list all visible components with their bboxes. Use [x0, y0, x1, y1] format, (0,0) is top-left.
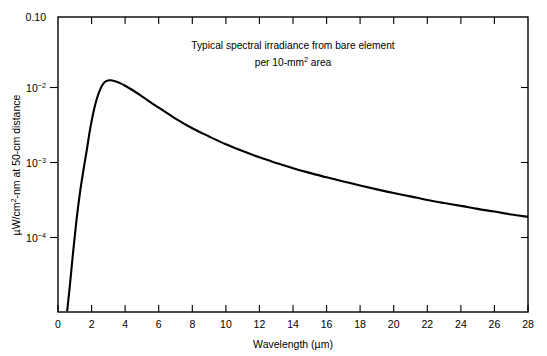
x-tick-label-10: 20: [388, 318, 400, 330]
x-tick-label-11: 22: [421, 318, 433, 330]
y-tick-labels: 0.10 10−2 10−3 10−4: [26, 11, 47, 244]
x-tick-label-4: 8: [189, 318, 195, 330]
y-tick-label-0: 0.10: [26, 11, 47, 23]
x-tick-label-14: 28: [522, 318, 534, 330]
y-tick-label-3-exponent: −4: [38, 231, 46, 240]
x-tick-label-12: 24: [455, 318, 467, 330]
y-axis-ticks: [50, 88, 58, 238]
chart-svg: 0.10 10−2 10−3 10−4 0 2 4 6 8 10 12 14 1…: [0, 0, 547, 356]
y-tick-label-1: 10−2: [26, 81, 46, 94]
figure-spectral-irradiance: 0.10 10−2 10−3 10−4 0 2 4 6 8 10 12 14 1…: [0, 0, 547, 356]
x-axis-ticks: [58, 305, 528, 312]
x-tick-label-8: 16: [321, 318, 333, 330]
x-tick-label-3: 6: [156, 318, 162, 330]
x-axis-top-ticks: [92, 17, 495, 24]
y-tick-label-2-exponent: −3: [38, 156, 46, 165]
y-tick-label-1-mantissa: 10: [26, 82, 38, 94]
chart-title-line2-suffix: area: [308, 57, 332, 68]
y-axis-title: µW/cm2-nm at 50-cm distance: [9, 94, 22, 235]
y-tick-label-3-mantissa: 10: [26, 232, 38, 244]
x-tick-label-13: 26: [489, 318, 501, 330]
x-tick-labels: 0 2 4 6 8 10 12 14 16 18 20 22 24 26 28: [55, 318, 534, 330]
chart-title-line1: Typical spectral irradiance from bare el…: [191, 40, 394, 51]
x-axis-title: Wavelength (µm): [253, 338, 333, 350]
y-axis-title-prefix: µW/cm: [10, 202, 22, 235]
y-tick-label-2-mantissa: 10: [26, 157, 38, 169]
x-tick-label-1: 2: [89, 318, 95, 330]
x-tick-label-5: 10: [220, 318, 232, 330]
chart-title: Typical spectral irradiance from bare el…: [191, 40, 394, 68]
y-tick-label-2: 10−3: [26, 156, 46, 169]
x-tick-label-9: 18: [354, 318, 366, 330]
chart-title-line2: per 10-mm2 area: [255, 55, 332, 68]
y-tick-label-1-exponent: −2: [38, 81, 46, 90]
x-tick-label-2: 4: [122, 318, 128, 330]
x-tick-label-7: 14: [287, 318, 299, 330]
x-tick-label-0: 0: [55, 318, 61, 330]
x-tick-label-6: 12: [254, 318, 266, 330]
y-axis-title-suffix: -nm at 50-cm distance: [10, 94, 22, 198]
data-curve-spectral-irradiance: [67, 80, 528, 310]
chart-title-line2-prefix: per 10-mm: [255, 57, 304, 68]
y-tick-label-3: 10−4: [26, 231, 46, 244]
